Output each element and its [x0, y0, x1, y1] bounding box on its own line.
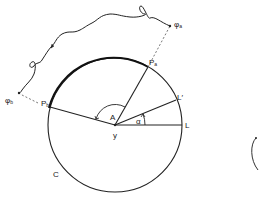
phi-a-point [169, 25, 171, 27]
dash-pb-phib [20, 94, 38, 103]
partial-arc-right [252, 138, 258, 170]
label-l: L [185, 121, 190, 130]
radius-pa [115, 67, 148, 125]
label-phi-b: φb [5, 96, 13, 105]
arc-pb-pa [49, 58, 148, 108]
label-center-y: y [113, 131, 117, 140]
trajectory-curve [19, 6, 170, 93]
label-l-prime: L′ [177, 93, 183, 102]
radius-l-prime [115, 100, 176, 125]
phi-b-point [18, 92, 20, 94]
label-phi-a: φa [174, 20, 182, 29]
label-pa: Pa [149, 58, 157, 67]
label-alpha: α [136, 117, 141, 126]
radius-pb [50, 107, 115, 125]
center-point [114, 124, 116, 126]
label-circle-c: C [53, 170, 59, 179]
diagram-canvas: φa φb Pa Pb A y α L L′ C [0, 0, 264, 198]
label-angle-a: A [110, 113, 116, 122]
label-pb: Pb [41, 99, 49, 108]
partial-arc-point [255, 137, 257, 139]
